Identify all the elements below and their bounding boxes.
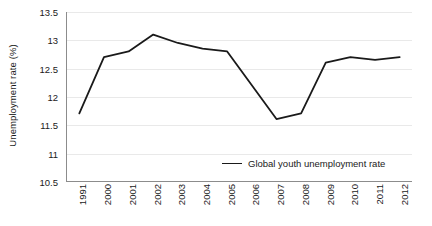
line-chart: Unemployment rate (%) 13.51312.51211.511… — [0, 0, 432, 226]
legend-line-swatch — [222, 163, 242, 164]
x-axis-tick-label: 2001 — [127, 184, 138, 205]
x-axis-tick-label: 2003 — [176, 184, 187, 205]
plot-area — [66, 12, 412, 182]
legend: Global youth unemployment rate — [222, 158, 385, 169]
y-axis-tick-label: 11.5 — [40, 120, 58, 131]
y-axis-tick-label: 12.5 — [40, 63, 59, 74]
x-axis-tick-label: 2002 — [152, 184, 163, 205]
y-axis-tick-label: 13 — [47, 35, 58, 46]
series-layer — [67, 12, 412, 181]
x-axis-tick-label: 2010 — [349, 184, 360, 205]
y-axis-title: Unemployment rate (%) — [0, 0, 24, 190]
y-axis-title-text: Unemployment rate (%) — [7, 44, 18, 146]
x-axis-tick-label: 2009 — [325, 184, 336, 205]
x-axis-tick-label: 1991 — [77, 184, 88, 205]
x-axis-tick-label: 2012 — [399, 184, 410, 205]
y-axis-tick-label: 11 — [48, 148, 58, 159]
x-axis-tick-label: 2008 — [300, 184, 311, 205]
y-axis-tick-label: 10.5 — [40, 177, 59, 188]
y-axis-tick-label: 13.5 — [40, 7, 59, 18]
y-axis-tick-labels: 13.51312.51211.51110.5 — [24, 12, 62, 182]
y-axis-tick-label: 12 — [47, 92, 58, 103]
x-axis-tick-label: 2007 — [275, 184, 286, 205]
x-axis-tick-label: 2004 — [201, 184, 212, 205]
series-line — [79, 35, 399, 120]
x-axis-tick-labels: 1991200020012002200320042005200620072008… — [66, 184, 412, 226]
x-axis-tick-label: 2005 — [226, 184, 237, 205]
x-axis-tick-label: 2006 — [250, 184, 261, 205]
x-axis-tick-label: 2011 — [374, 184, 385, 204]
legend-item-label: Global youth unemployment rate — [248, 158, 385, 169]
x-axis-tick-label: 2000 — [102, 184, 113, 205]
